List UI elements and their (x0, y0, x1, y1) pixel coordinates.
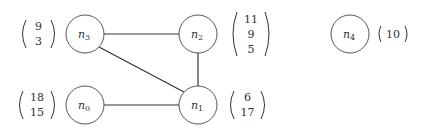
node-n3: n3 (66, 15, 104, 53)
svg-text:5: 5 (248, 43, 255, 56)
vector-n0: 18 15 (20, 91, 55, 119)
svg-text:17: 17 (241, 106, 255, 119)
svg-text:6: 6 (244, 91, 251, 104)
svg-text:3: 3 (35, 35, 42, 48)
vector-n3: 9 3 (23, 20, 55, 48)
vector-n4: 10 (379, 26, 407, 42)
svg-text:11: 11 (244, 13, 258, 26)
node-n1: n1 (179, 86, 217, 124)
vector-n2: 11 9 5 (233, 12, 269, 56)
svg-text:9: 9 (248, 28, 255, 41)
svg-text:15: 15 (30, 106, 44, 119)
svg-text:10: 10 (386, 28, 400, 41)
svg-text:9: 9 (35, 20, 42, 33)
vector-n1: 6 17 (231, 91, 265, 119)
node-n4: n4 (331, 15, 369, 53)
node-n2: n2 (179, 15, 217, 53)
graph-diagram: n3 9 3 n2 11 9 5 n4 10 n0 18 15 (0, 0, 427, 133)
edge-n3-n1 (99, 47, 184, 92)
svg-text:18: 18 (30, 91, 44, 104)
node-n0: n0 (66, 86, 104, 124)
